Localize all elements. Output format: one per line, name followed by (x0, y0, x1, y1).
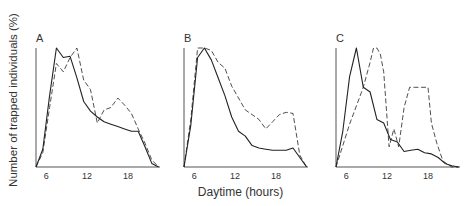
panel-a: A61218 (36, 32, 160, 181)
series-dashed (336, 48, 459, 167)
figure-canvas: A61218B61218C61218 (0, 0, 473, 206)
x-tick-label: 12 (382, 171, 392, 181)
x-tick-label: 6 (344, 171, 349, 181)
panel-title: A (36, 32, 44, 44)
x-tick-label: 18 (271, 171, 281, 181)
panel-c: C61218 (336, 32, 460, 181)
x-axis-label: Daytime (hours) (0, 185, 473, 199)
panel-title: C (336, 32, 344, 44)
x-tick-label: 18 (423, 171, 433, 181)
x-tick-label: 6 (192, 171, 197, 181)
x-tick-label: 12 (230, 171, 240, 181)
x-tick-label: 12 (82, 171, 92, 181)
x-tick-label: 18 (123, 171, 133, 181)
panel-b: B61218 (184, 32, 308, 181)
series-solid (184, 48, 307, 167)
panel-title: B (184, 32, 191, 44)
series-solid (36, 48, 159, 167)
y-axis-label-text: Number of trapped individuals (%) (7, 13, 19, 187)
series-solid (336, 48, 459, 167)
x-tick-label: 6 (44, 171, 49, 181)
y-axis-label: Number of trapped individuals (%) (3, 20, 23, 180)
